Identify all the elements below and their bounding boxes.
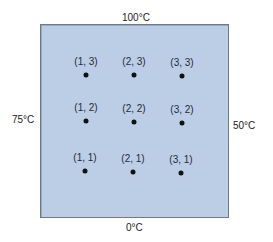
top-temperature-label: 100°C xyxy=(122,12,150,23)
node-dot-icon xyxy=(180,121,185,126)
node-dot-icon xyxy=(179,171,184,176)
node-label: (3, 1) xyxy=(169,154,192,165)
right-temperature-label: 50°C xyxy=(233,120,255,131)
node-label: (2, 3) xyxy=(122,56,145,67)
node-dot-icon xyxy=(132,73,137,78)
node-dot-icon xyxy=(83,169,88,174)
node-label: (1, 3) xyxy=(74,56,97,67)
node-dot-icon xyxy=(131,170,136,175)
node-dot-icon xyxy=(180,74,185,79)
node-label: (2, 1) xyxy=(121,153,144,164)
node-label: (2, 2) xyxy=(122,103,145,114)
node-label: (3, 2) xyxy=(170,104,193,115)
node-label: (1, 1) xyxy=(73,152,96,163)
node-label: (1, 2) xyxy=(74,102,97,113)
left-temperature-label: 75°C xyxy=(12,114,34,125)
node-label: (3, 3) xyxy=(170,57,193,68)
node-dot-icon xyxy=(132,120,137,125)
bottom-temperature-label: 0°C xyxy=(126,222,143,233)
node-dot-icon xyxy=(84,73,89,78)
node-dot-icon xyxy=(84,119,89,124)
